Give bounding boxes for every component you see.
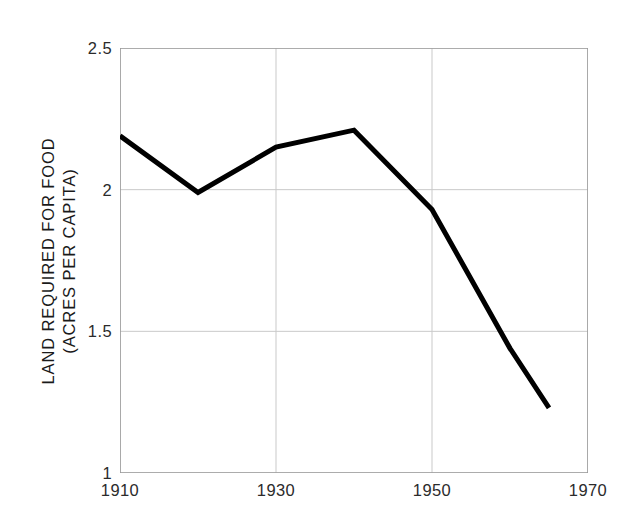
axis-frame <box>120 48 588 473</box>
y-tick-label: 1.5 <box>78 322 112 341</box>
x-tick-label: 1910 <box>101 481 139 500</box>
x-tick-label: 1970 <box>569 481 607 500</box>
y-axis-title-line-2: (ACRES PER CAPITA) <box>59 137 80 384</box>
y-tick-label: 2.5 <box>78 39 112 58</box>
y-axis-title-line-1: LAND REQUIRED FOR FOOD <box>38 137 59 384</box>
y-axis-title: LAND REQUIRED FOR FOOD (ACRES PER CAPITA… <box>38 137 80 384</box>
plot-area <box>120 48 588 473</box>
y-axis-title-container: LAND REQUIRED FOR FOOD (ACRES PER CAPITA… <box>0 0 118 522</box>
chart-figure: LAND REQUIRED FOR FOOD (ACRES PER CAPITA… <box>0 0 638 522</box>
x-tick-label: 1950 <box>413 481 451 500</box>
data-line <box>120 130 549 408</box>
data-series-group <box>120 130 549 408</box>
y-tick-label: 1 <box>78 464 112 483</box>
gridlines <box>120 48 588 473</box>
x-tick-label: 1930 <box>257 481 295 500</box>
plot-svg <box>120 48 588 473</box>
y-tick-label: 2 <box>78 180 112 199</box>
